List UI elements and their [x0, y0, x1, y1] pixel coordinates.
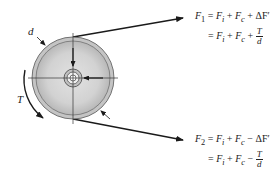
- torque-label: T: [17, 93, 23, 105]
- torque-over-diameter-fraction: Td: [256, 150, 263, 169]
- tight-side-line-2: = Fi + Fc + Td: [195, 27, 270, 46]
- torque-over-diameter-fraction: Td: [256, 27, 263, 46]
- tight-side-line-1: F1 = Fi + Fc + ΔF′: [195, 10, 270, 25]
- slack-side-line-2: = Fi + Fc − Td: [195, 150, 270, 169]
- slack-side-equation: F2 = Fi + Fc − ΔF′ = Fi + Fc − Td: [195, 133, 270, 169]
- slack-side-line-1: F2 = Fi + Fc − ΔF′: [195, 133, 270, 148]
- tight-side-belt: [73, 18, 183, 37]
- tight-side-equation: F1 = Fi + Fc + ΔF′ = Fi + Fc + Td: [195, 10, 270, 46]
- diameter-leader-arrow-lower: [101, 111, 110, 119]
- slack-side-belt: [73, 119, 183, 140]
- diameter-leader-arrow: [37, 37, 45, 45]
- diameter-label: d: [28, 25, 34, 37]
